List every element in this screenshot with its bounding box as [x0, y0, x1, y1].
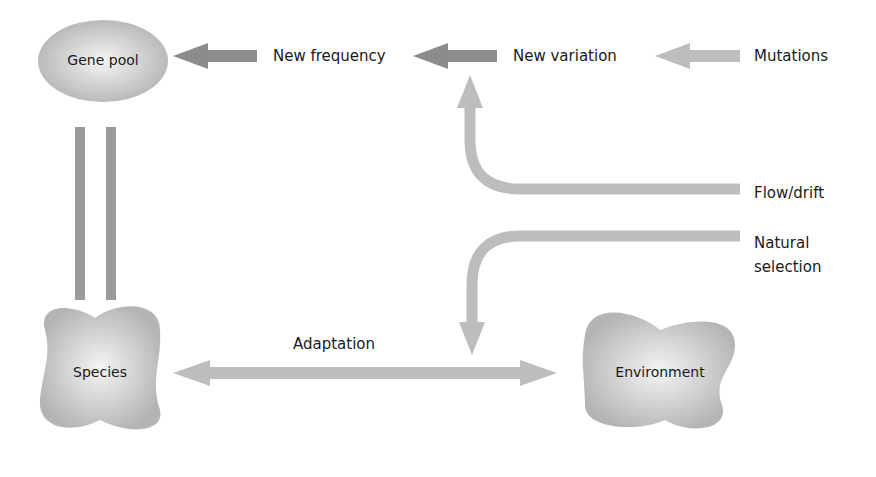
- diagram-canvas: [0, 0, 876, 477]
- arrow-naturalselection-head: [459, 322, 485, 355]
- environment-label: Environment: [600, 364, 720, 380]
- gene-pool-label: Gene pool: [53, 52, 153, 68]
- arrow-flowdrift-to-newvar: [470, 105, 740, 189]
- arrow-adaptation-bidirectional: [173, 360, 557, 386]
- equivalence-bar-right: [106, 127, 116, 300]
- arrow-flowdrift-head: [457, 75, 483, 108]
- natural-selection-label-line2: selection: [754, 257, 821, 277]
- mutations-label: Mutations: [754, 46, 828, 66]
- arrow-naturalselection-down: [472, 236, 740, 325]
- new-variation-label: New variation: [513, 46, 617, 66]
- flow-drift-label: Flow/drift: [754, 183, 824, 203]
- arrow-newvar-to-newfreq: [413, 43, 497, 69]
- natural-selection-label-line1: Natural: [754, 233, 809, 253]
- new-frequency-label: New frequency: [273, 46, 386, 66]
- arrow-mutations-to-newvar: [655, 43, 740, 69]
- arrow-newfreq-to-genepool: [173, 43, 257, 69]
- species-label: Species: [50, 364, 150, 380]
- adaptation-label: Adaptation: [293, 334, 375, 354]
- equivalence-bar-left: [75, 127, 85, 300]
